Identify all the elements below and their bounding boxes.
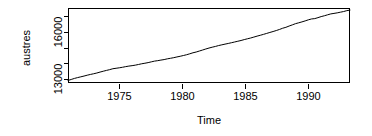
x-tick-label-1975: 1975 [107,90,131,102]
y-axis-group: 16000 13000 austres [20,17,69,95]
x-tick-label-1985: 1985 [233,90,257,102]
plot-box-border [69,9,350,83]
x-axis-title: Time [197,114,221,126]
x-tick-label-1990: 1990 [296,90,320,102]
data-line-austres [68,10,350,80]
chart-plot-area: 16000 13000 austres 1975 1980 1985 1990 … [0,0,372,136]
y-tick-label-16000: 16000 [52,17,64,48]
y-tick-label-13000: 13000 [52,64,64,95]
data-series-group [68,10,350,80]
x-axis-group: 1975 1980 1985 1990 Time [107,84,320,127]
x-tick-label-1980: 1980 [170,90,194,102]
plot-frame-group [69,9,350,83]
y-axis-title: austres [20,29,32,66]
austres-line-chart: 16000 13000 austres 1975 1980 1985 1990 … [0,0,372,136]
